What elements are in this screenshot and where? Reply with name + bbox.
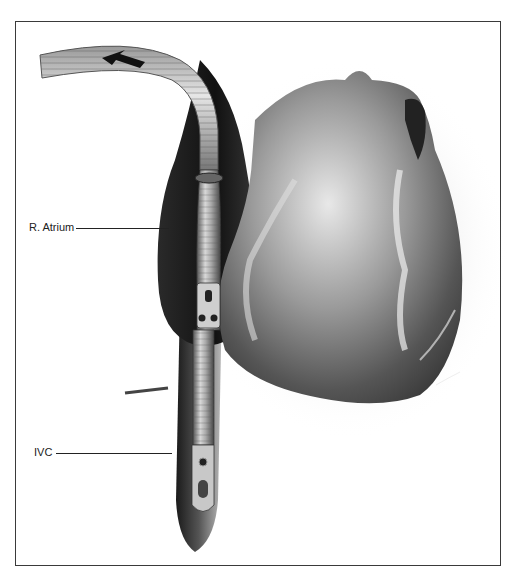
cannula-tip [192,445,214,512]
tip-hole [199,458,207,466]
purse-string-collar [195,173,223,183]
heart-cannula-illustration [0,0,519,580]
suture-line [125,388,168,393]
atrial-basket [197,283,220,328]
label-r-atrium: R. Atrium [29,221,74,233]
drain-hole [211,315,218,322]
label-ivc: IVC [34,446,52,458]
cannula-ivc-ribs [193,330,214,445]
leader-line-r-atrium [76,228,169,229]
drain-hole [205,290,212,302]
drain-hole [199,315,206,322]
leader-line-ivc [56,453,172,454]
tip-hole [198,480,208,498]
